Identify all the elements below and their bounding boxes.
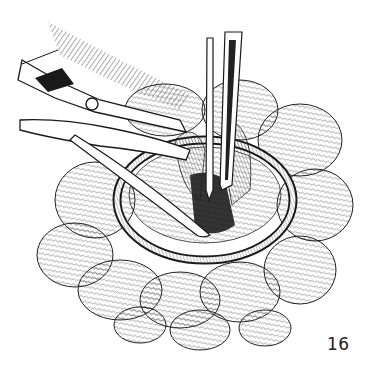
illustration-drawing xyxy=(0,0,371,381)
figure-number: 16 xyxy=(327,334,350,354)
surgical-illustration: 16 xyxy=(0,0,371,381)
scissors-pivot-screw xyxy=(86,98,98,110)
